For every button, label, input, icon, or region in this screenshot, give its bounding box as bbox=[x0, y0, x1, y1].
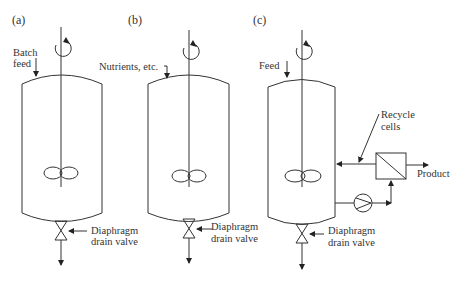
valve-label-c-1: Diaphragm bbox=[328, 225, 375, 236]
rotation-arrow-icon-b bbox=[183, 45, 199, 59]
panel-label-b: (b) bbox=[128, 15, 142, 26]
valve-label-c-2: drain valve bbox=[328, 237, 375, 248]
valve-label-b-2: drain valve bbox=[211, 233, 258, 244]
nutrients-label: Nutrients, etc. bbox=[99, 61, 158, 72]
diaphragm-valve-icon-a bbox=[55, 221, 67, 240]
valve-label-a-1: Diaphragm bbox=[91, 225, 138, 236]
tank-a-impeller-left bbox=[44, 167, 62, 179]
panel-label-a: (a) bbox=[12, 15, 25, 26]
rotation-arrow-icon-c bbox=[296, 45, 312, 59]
tank-a bbox=[22, 27, 102, 265]
batch-feed-label-2: feed bbox=[13, 58, 31, 69]
tank-a-impeller-right bbox=[60, 167, 78, 179]
recycle-label-1: Recycle bbox=[381, 109, 415, 120]
diaphragm-valve-icon-c bbox=[296, 224, 308, 243]
product-label: Product bbox=[417, 168, 450, 179]
rotation-arrow-icon-a bbox=[55, 42, 71, 56]
panel-label-c: (c) bbox=[253, 15, 266, 26]
pump-icon bbox=[354, 194, 372, 212]
feed-label: Feed bbox=[259, 60, 279, 71]
valve-label-b-1: Diaphragm bbox=[211, 221, 258, 232]
batch-feed-label-1: Batch bbox=[13, 47, 38, 58]
valve-label-a-2: drain valve bbox=[91, 236, 138, 247]
tank-a-vessel bbox=[22, 75, 102, 222]
nutrients-arrow bbox=[164, 66, 167, 78]
recycle-label-2: cells bbox=[381, 121, 400, 132]
